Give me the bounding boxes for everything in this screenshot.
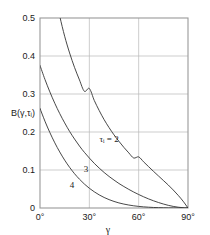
x-tick-label: 60° [132,212,146,222]
x-tick-label: 90° [181,212,195,222]
chart-figure: 0°30°60°90° 00.10.20.30.40.5 τᵢ = 234 γ … [0,0,210,235]
x-axis-title: γ [105,224,111,235]
y-tick-label: 0.3 [22,89,35,99]
y-tick-label: 0.4 [22,51,35,61]
x-tick-label: 0° [36,212,45,222]
y-axis-title: B(γ,τᵢ) [11,108,35,118]
curve-label-4: 4 [70,180,75,190]
curve-label--2: τᵢ = 2 [99,134,118,144]
y-tick-label: 0.5 [22,13,35,23]
chart-svg: 0°30°60°90° 00.10.20.30.40.5 τᵢ = 234 γ … [0,0,210,235]
y-tick-label: 0 [30,203,35,213]
x-tick-label: 30° [83,212,97,222]
y-tick-label: 0.1 [22,165,35,175]
curve-label-3: 3 [84,164,89,174]
y-tick-label: 0.2 [22,127,35,137]
